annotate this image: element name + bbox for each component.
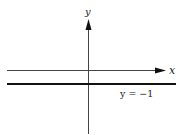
x-axis-label: x xyxy=(169,64,176,77)
graph-canvas: x y y = −1 xyxy=(0,0,176,135)
x-axis-arrow-icon xyxy=(155,68,166,74)
line-equation-label: y = −1 xyxy=(119,88,153,99)
coordinate-plane: x y y = −1 xyxy=(0,0,176,135)
y-axis-label: y xyxy=(84,6,91,17)
y-axis-arrow-icon xyxy=(86,19,92,30)
